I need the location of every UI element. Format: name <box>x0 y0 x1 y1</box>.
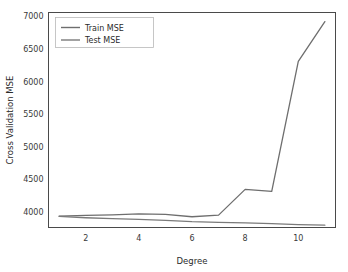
x-tick-label: 4 <box>136 234 141 243</box>
y-tick-label: 7000 <box>23 12 43 21</box>
chart-figure: 4000450050005500600065007000 246810 Degr… <box>0 0 348 272</box>
y-tick-label: 6500 <box>23 45 43 54</box>
legend-label-2: Test MSE <box>84 36 120 45</box>
y-axis-title: Cross Validation MSE <box>5 76 15 165</box>
x-tick-label: 8 <box>243 234 248 243</box>
x-axis-title: Degree <box>177 256 208 266</box>
figure-background <box>0 0 348 272</box>
x-tick-label: 10 <box>293 234 303 243</box>
y-tick-label: 5500 <box>23 110 43 119</box>
chart-legend[interactable]: Train MSETest MSE <box>56 18 154 48</box>
y-tick-label: 4500 <box>23 175 43 184</box>
y-tick-label: 4000 <box>23 208 43 217</box>
line-chart: 4000450050005500600065007000 246810 Degr… <box>0 0 348 272</box>
y-tick-label: 5000 <box>23 143 43 152</box>
legend-label-1: Train MSE <box>84 24 124 33</box>
x-tick-label: 6 <box>189 234 194 243</box>
x-tick-label: 2 <box>83 234 88 243</box>
y-tick-label: 6000 <box>23 78 43 87</box>
